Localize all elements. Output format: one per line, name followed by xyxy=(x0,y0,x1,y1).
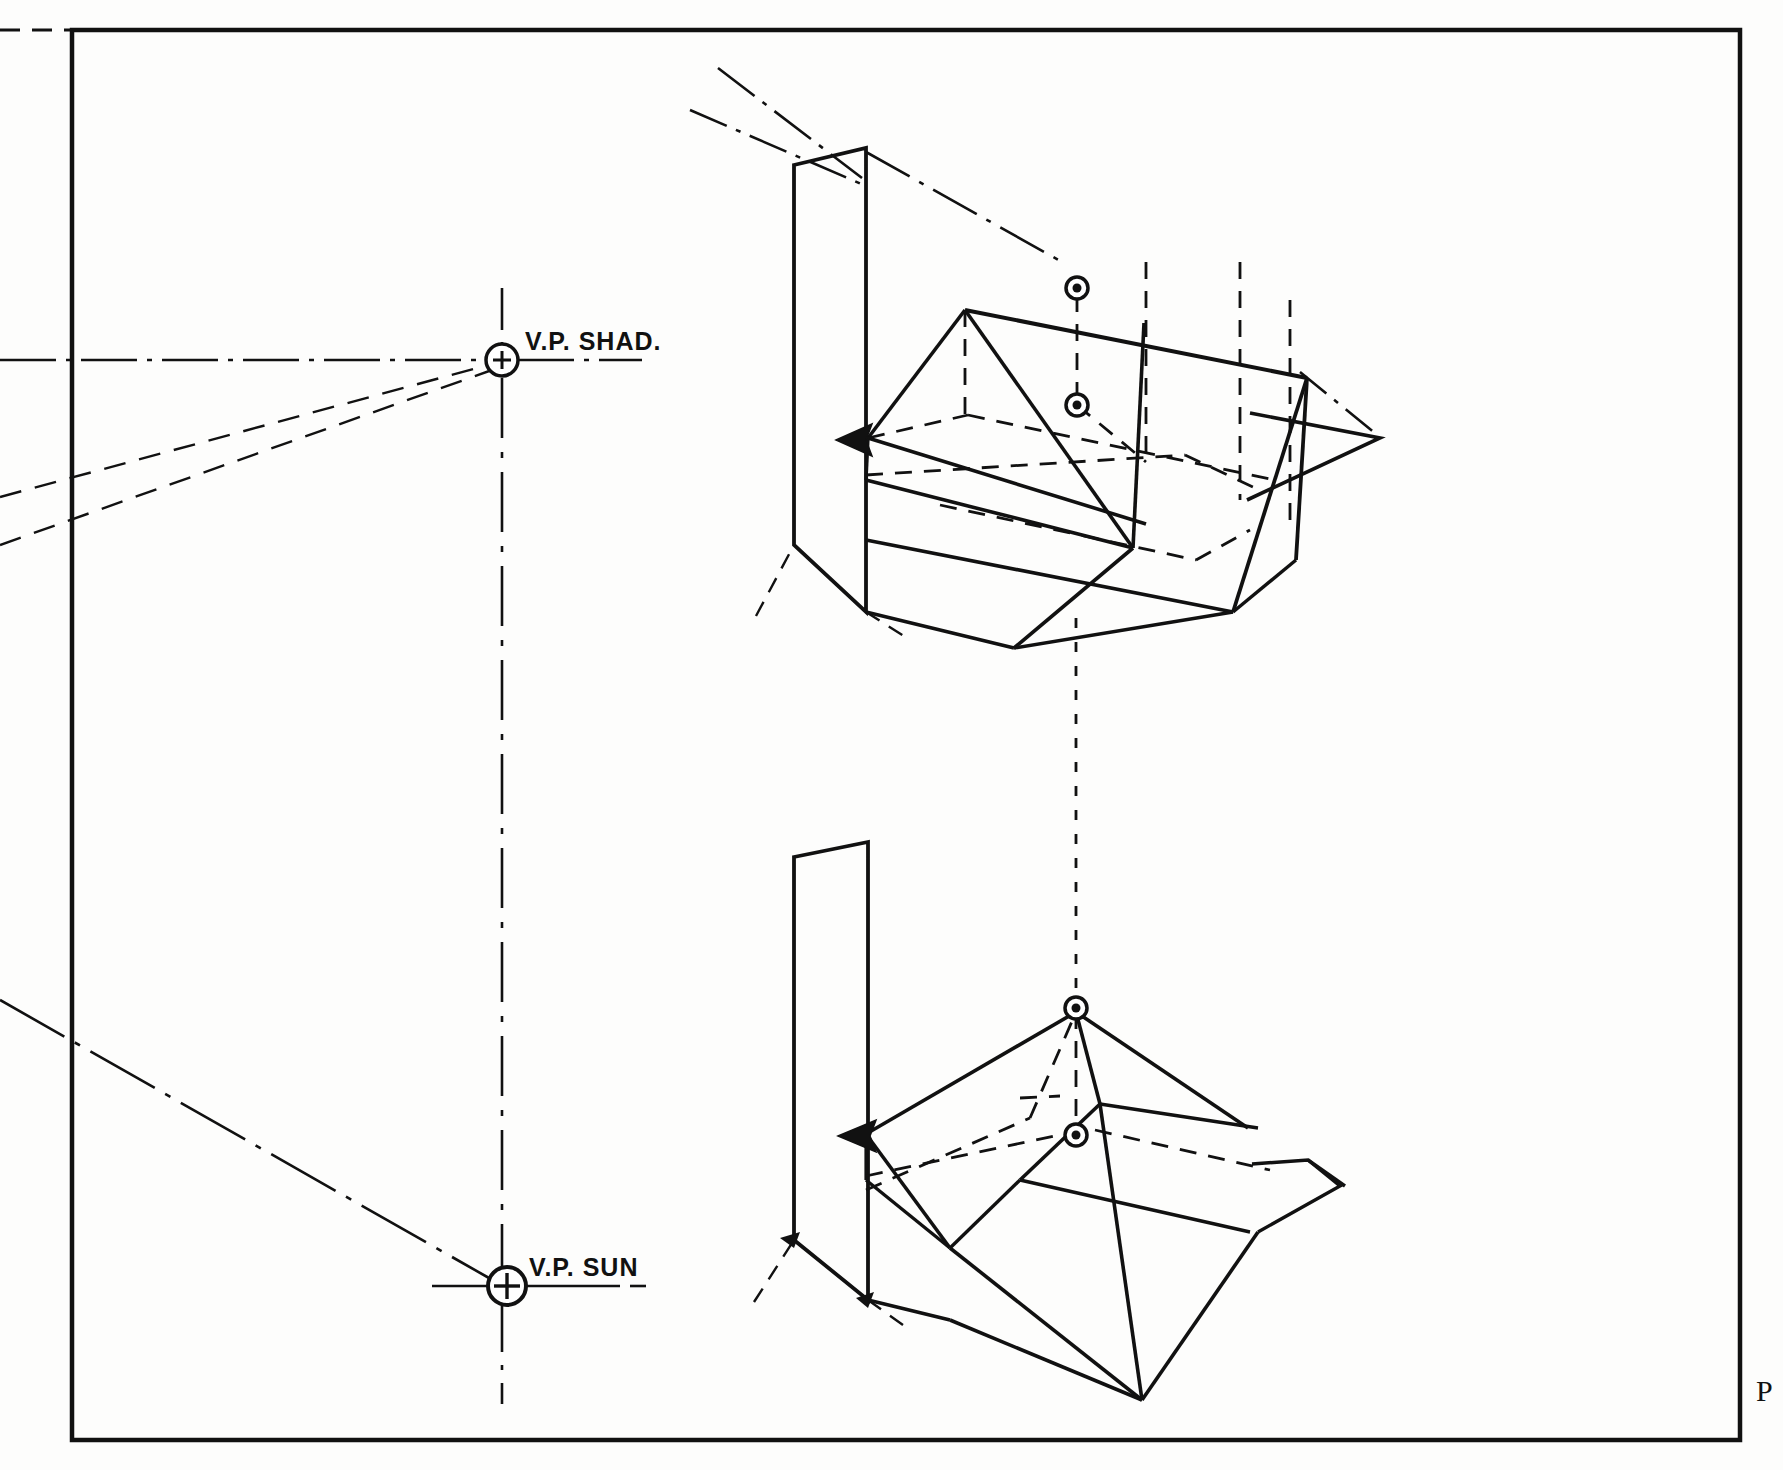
ridge-point-marker-upper[interactable] xyxy=(1066,277,1088,299)
plate-mark-label: P xyxy=(1756,1374,1774,1408)
ridge-line-upper xyxy=(965,310,1307,378)
upper-construction-ray-c xyxy=(866,152,1062,262)
shadow-wing-lower xyxy=(1252,1160,1345,1232)
hip-ground-base-mid xyxy=(950,1320,1142,1400)
drawing-border-frame xyxy=(0,30,1740,1440)
gable-front-slope-b xyxy=(1133,323,1144,548)
shadow-wing-outline-lower xyxy=(1252,1160,1340,1232)
hip-front-left-to-mid xyxy=(950,1180,1020,1248)
hip-shadow-edge-down xyxy=(1100,1104,1142,1400)
wall-panel-upper xyxy=(794,148,866,612)
shadow-wing-upper xyxy=(1247,372,1380,500)
upper-construction-ray-b xyxy=(690,110,866,186)
vanishing-point-construction xyxy=(0,288,646,1404)
picture-plane-wall-upper xyxy=(794,148,866,612)
vp-shadow-label: V.P. SHAD. xyxy=(525,327,661,356)
shadow-edge-upper-lower xyxy=(866,540,1233,612)
hip-front-base-right xyxy=(1020,1180,1250,1232)
gable-left-slope xyxy=(868,310,965,438)
wall-panel-lower xyxy=(794,842,868,1300)
gable-base-front-left xyxy=(868,438,1146,524)
lower-perspective-view xyxy=(754,842,1345,1400)
direction-arrowhead-lower xyxy=(838,1120,876,1152)
shadow-wing-tip-lower xyxy=(1308,1160,1345,1186)
wall-base-extension-left-lower xyxy=(754,1240,794,1302)
border-rectangle xyxy=(72,30,1740,1440)
hip-edge-to-left xyxy=(866,1012,1076,1134)
vp-sun-label: V.P. SUN xyxy=(529,1253,638,1282)
upper-construction-ray-a xyxy=(718,68,862,178)
hip-shadow-edge-bottom-right xyxy=(1142,1232,1258,1400)
technical-drawing-canvas xyxy=(0,0,1783,1470)
vp-shadow-marker[interactable] xyxy=(486,344,518,376)
ground-projection-marker-upper[interactable] xyxy=(1066,394,1088,416)
drawing-plate: V.P. SHAD. V.P. SUN P xyxy=(0,0,1783,1470)
picture-plane-wall-lower xyxy=(794,842,868,1300)
vp-sun-marker[interactable] xyxy=(488,1267,526,1305)
direction-arrowhead-upper xyxy=(836,424,872,456)
hip-shadow-edge-bottom-left xyxy=(950,1248,1142,1400)
shadow-edge-bottom xyxy=(866,612,1014,648)
shadow-wing-outline xyxy=(1247,413,1380,500)
ground-projection-marker-lower[interactable] xyxy=(1065,1124,1087,1146)
hip-solid-lower xyxy=(866,1012,1258,1400)
shadow-edge-bottom-to-wedge xyxy=(1014,612,1233,648)
hip-ridge-right xyxy=(1100,1104,1258,1128)
wall-base-extension-left xyxy=(756,545,794,616)
apex-point-marker-lower[interactable] xyxy=(1065,997,1087,1019)
wedge-right-edge-a xyxy=(1233,378,1307,612)
